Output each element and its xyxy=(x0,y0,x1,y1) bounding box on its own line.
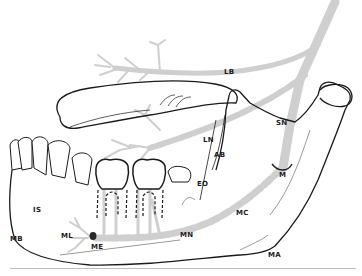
label-eo: EO xyxy=(197,181,208,188)
molar-2 xyxy=(133,159,166,189)
premolar-2 xyxy=(72,153,92,185)
label-m: M xyxy=(279,172,286,179)
label-me: ME xyxy=(91,244,103,251)
condyle xyxy=(320,84,352,106)
label-mn: MN xyxy=(180,232,193,239)
label-is: IS xyxy=(33,207,41,214)
nerve-pathways xyxy=(68,2,335,252)
lingual-nerve-ln xyxy=(150,75,305,148)
molar-3 xyxy=(168,166,191,182)
lb-twigs xyxy=(95,40,165,82)
canine xyxy=(32,137,48,175)
label-mc: MC xyxy=(236,210,249,217)
label-ma: MA xyxy=(268,252,281,259)
label-lb: LB xyxy=(224,69,234,76)
tongue-outline xyxy=(57,81,237,128)
molar-1-roots xyxy=(97,190,127,218)
label-ln: LN xyxy=(203,137,214,144)
mental-foramen xyxy=(90,232,97,240)
label-mb: MB xyxy=(10,236,23,243)
premolar-1 xyxy=(48,141,70,178)
label-ml: ML xyxy=(61,233,73,240)
lingual-branch-lb xyxy=(115,45,318,73)
label-ab: AB xyxy=(214,152,225,159)
label-sn: SN xyxy=(276,120,288,127)
sublingual-twigs xyxy=(105,105,160,160)
bottom-divider xyxy=(10,268,356,269)
tongue xyxy=(57,81,237,128)
molar-1 xyxy=(96,159,129,189)
